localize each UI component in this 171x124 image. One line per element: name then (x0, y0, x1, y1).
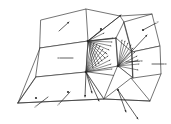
mesh-faces (18, 9, 161, 103)
edge-top-ridge (86, 9, 152, 16)
edge-right-lower (150, 74, 161, 101)
node-dot-left (35, 97, 37, 99)
mesh-vector-diagram (0, 0, 171, 124)
node-dot-topmid (100, 28, 102, 30)
figure-container: Technical line drawing of a folded quadr… (0, 0, 171, 124)
node-dot-upright (142, 29, 144, 31)
node-dot-mid (67, 91, 69, 93)
face-upper-right-panel (124, 14, 160, 52)
face-right-edge-panel (132, 46, 161, 78)
node-dot-right (117, 89, 119, 91)
face-center-upper-wedge (88, 16, 124, 41)
